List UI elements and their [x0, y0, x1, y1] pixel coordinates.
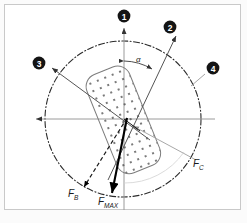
callout-2-label: 2 [168, 23, 173, 33]
callout-1-label: 1 [122, 12, 127, 22]
angle-symbol: α [136, 55, 141, 64]
force-label-fmax: FMAX [98, 196, 118, 209]
force-fc-sub: C [199, 164, 204, 171]
force-label-fb: FB [68, 188, 78, 201]
callout-2[interactable]: 2 [164, 21, 177, 34]
force-label-fc: FC [193, 158, 204, 171]
callout-4[interactable]: 4 [207, 62, 220, 75]
callout-4-leader [191, 74, 205, 86]
callout-3-label: 3 [37, 59, 42, 69]
diagram-canvas: 1 2 3 4 [0, 0, 247, 223]
callout-3[interactable]: 3 [33, 57, 46, 70]
callout-1[interactable]: 1 [118, 10, 131, 23]
figure-container: 1 2 3 4 α FB FMAX FC [0, 0, 247, 223]
force-fb-sub: B [74, 194, 78, 201]
force-fmax-sub: MAX [104, 202, 118, 209]
angle-label: α [136, 55, 141, 64]
callout-4-label: 4 [211, 64, 216, 74]
